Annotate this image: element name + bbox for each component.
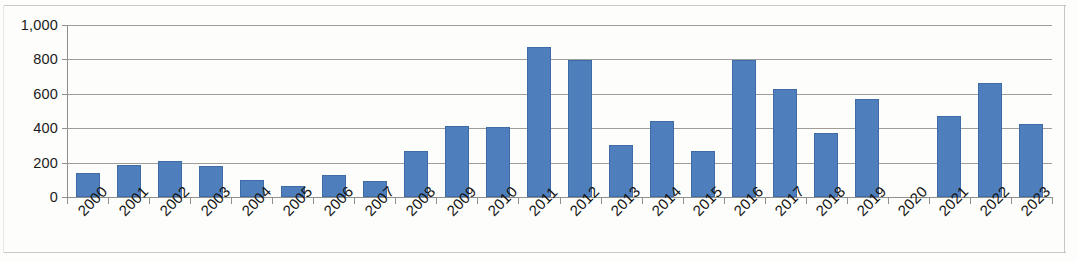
x-axis-tick-label: 2008	[402, 183, 438, 219]
x-axis-tick-label: 2021	[935, 183, 971, 219]
x-axis-tick-label: 2013	[607, 183, 643, 219]
x-axis-tick-label: 2011	[525, 183, 561, 219]
x-axis-tick-label: 2005	[279, 183, 315, 219]
x-axis-tick-label: 2003	[197, 183, 233, 219]
x-axis-tick-labels: 2000200120022003200420052006200720082009…	[0, 0, 1077, 262]
x-axis-tick-label: 2016	[730, 183, 766, 219]
x-axis-tick-label: 2001	[115, 183, 151, 219]
x-axis-tick-label: 2006	[320, 183, 356, 219]
x-axis-tick-label: 2007	[361, 183, 397, 219]
x-axis-tick-label: 2023	[1017, 183, 1053, 219]
x-axis-tick-label: 2015	[689, 183, 725, 219]
bar-chart-figure: 02004006008001,000 200020012002200320042…	[0, 0, 1077, 262]
x-axis-tick-label: 2022	[976, 183, 1012, 219]
x-axis-tick-label: 2014	[648, 183, 684, 219]
x-axis-tick-label: 2002	[156, 183, 192, 219]
x-axis-tick-label: 2004	[238, 183, 274, 219]
x-axis-tick-label: 2020	[894, 183, 930, 219]
x-axis-tick-label: 2010	[484, 183, 520, 219]
x-axis-tick-label: 2019	[853, 183, 889, 219]
x-axis-tick-label: 2018	[812, 183, 848, 219]
x-axis-tick-label: 2000	[74, 183, 110, 219]
x-axis-tick-label: 2017	[771, 183, 807, 219]
x-axis-tick-label: 2009	[443, 183, 479, 219]
x-axis-tick-label: 2012	[566, 183, 602, 219]
